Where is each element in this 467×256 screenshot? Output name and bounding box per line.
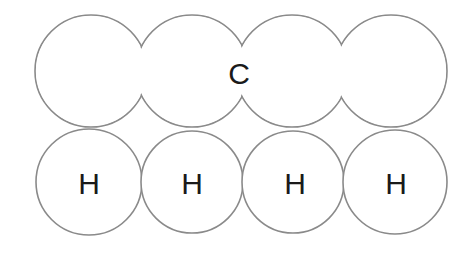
- hydrogen-row: H H H H: [36, 129, 447, 235]
- hydrogen-label-3: H: [284, 167, 306, 200]
- hydrogen-label-4: H: [385, 167, 407, 200]
- hydrogen-label-2: H: [181, 167, 203, 200]
- molecule-diagram: C H H H H: [0, 0, 467, 256]
- carbon-row: C: [35, 15, 447, 127]
- hydrogen-label-1: H: [78, 167, 100, 200]
- carbon-label: C: [228, 57, 250, 90]
